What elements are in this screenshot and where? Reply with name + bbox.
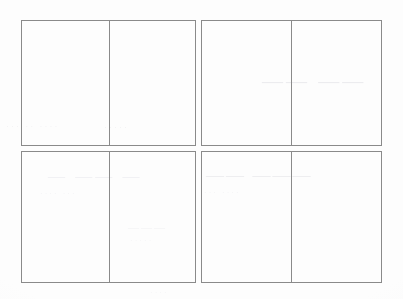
form-cell[interactable] xyxy=(22,152,109,282)
ghost-mark-footer: ···· xyxy=(150,288,169,297)
block-bottom-left[interactable] xyxy=(21,151,196,283)
block-bottom-right[interactable] xyxy=(201,151,382,283)
form-cell[interactable] xyxy=(291,152,381,282)
scanned-page: —— —— ··· ·· ···· ····· — —— — ···· ··· … xyxy=(0,0,403,299)
form-cell[interactable] xyxy=(109,152,195,282)
form-grid xyxy=(21,20,382,283)
form-cell[interactable] xyxy=(202,152,291,282)
block-top-left[interactable] xyxy=(21,20,196,146)
form-cell[interactable] xyxy=(109,21,195,145)
form-cell[interactable] xyxy=(22,21,109,145)
block-top-right[interactable] xyxy=(201,20,382,146)
form-cell[interactable] xyxy=(202,21,291,145)
form-cell[interactable] xyxy=(291,21,381,145)
